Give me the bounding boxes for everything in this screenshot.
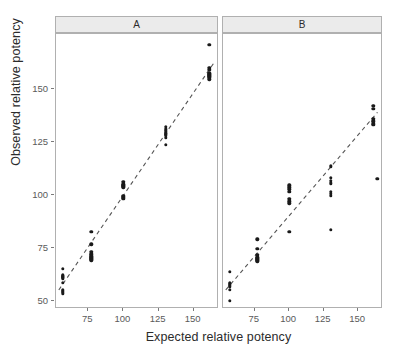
scatter-plot-figure: Observed relative potency Expected relat… [0, 0, 395, 350]
x-tick-mark [288, 308, 289, 311]
x-tick-mark [158, 308, 159, 311]
x-tick-label: 75 [239, 313, 269, 324]
y-tick-mark [51, 141, 54, 142]
y-tick-mark [51, 194, 54, 195]
x-tick-label: 150 [342, 313, 372, 324]
x-axis-title: Expected relative potency [55, 330, 382, 344]
x-tick-mark [357, 308, 358, 311]
plot-area-a [55, 33, 218, 308]
y-tick-label: 50 [22, 294, 48, 305]
x-tick-label: 125 [308, 313, 338, 324]
y-axis-title: Observed relative potency [9, 0, 29, 207]
facet-panel-a: A [55, 16, 218, 308]
x-tick-mark [122, 308, 123, 311]
plot-area-b [222, 33, 382, 308]
x-tick-label: 100 [273, 313, 303, 324]
facet-strip-label-a: A [133, 19, 140, 30]
x-tick-label: 150 [178, 313, 208, 324]
fit-line [56, 34, 217, 307]
y-tick-mark [51, 247, 54, 248]
y-tick-label: 150 [22, 83, 48, 94]
x-tick-label: 100 [107, 313, 137, 324]
y-tick-label: 75 [22, 241, 48, 252]
facet-panel-b: B [222, 16, 382, 308]
facet-strip-label-b: B [299, 19, 306, 30]
x-tick-label: 75 [72, 313, 102, 324]
x-tick-mark [193, 308, 194, 311]
y-tick-label: 125 [22, 135, 48, 146]
y-tick-mark [51, 300, 54, 301]
facet-strip-a: A [55, 16, 218, 33]
y-tick-label: 100 [22, 188, 48, 199]
x-tick-mark [87, 308, 88, 311]
x-tick-mark [323, 308, 324, 311]
x-tick-label: 125 [143, 313, 173, 324]
y-tick-mark [51, 88, 54, 89]
x-tick-mark [254, 308, 255, 311]
fit-line [223, 34, 381, 307]
facet-strip-b: B [222, 16, 382, 33]
